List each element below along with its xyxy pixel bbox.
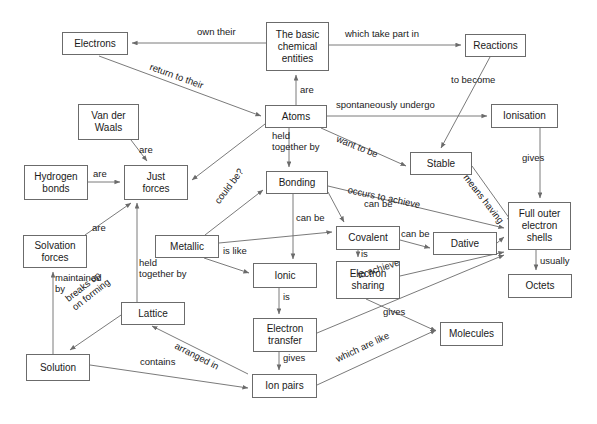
edge-label-atoms-to-basic_entities: are bbox=[300, 84, 314, 95]
concept-node-just_forces[interactable]: Just forces bbox=[124, 165, 188, 200]
edge-electron_shar-to-full_outer bbox=[400, 252, 504, 276]
concept-node-ionisation[interactable]: Ionisation bbox=[491, 104, 558, 128]
concept-node-molecules[interactable]: Molecules bbox=[440, 322, 503, 346]
edge-label-ionisation-to-full_outer: gives bbox=[522, 152, 544, 163]
concept-node-full_outer[interactable]: Full outer electron shells bbox=[508, 202, 571, 250]
concept-node-reactions[interactable]: Reactions bbox=[465, 34, 526, 57]
edge-label-bonding-to-ionic: can be bbox=[296, 212, 325, 223]
edge-label-van_der_waals-to-just_forces: are bbox=[139, 144, 153, 155]
edge-label-bonding-to-covalent: can be bbox=[364, 198, 393, 209]
concept-node-electrons[interactable]: Electrons bbox=[62, 32, 128, 55]
concept-node-atoms[interactable]: Atoms bbox=[265, 105, 327, 128]
edge-label-solution-to-ion_pairs: contains bbox=[140, 356, 175, 367]
edge-solution-to-ion_pairs bbox=[90, 365, 248, 388]
edge-label-ionic-to-electron_trans: is bbox=[283, 291, 290, 302]
concept-map-canvas: ElectronsThe basic chemical entitiesReac… bbox=[0, 0, 597, 424]
concept-node-van_der_waals[interactable]: Van der Waals bbox=[78, 104, 139, 140]
edge-label-basic_entities-to-electrons: own their bbox=[197, 26, 236, 37]
concept-node-metallic[interactable]: Metallic bbox=[155, 235, 219, 258]
concept-node-lattice[interactable]: Lattice bbox=[121, 302, 185, 325]
edge-label-metallic-to-covalent: is like bbox=[223, 245, 247, 256]
edge-label-full_outer-to-octets: usually bbox=[540, 255, 570, 266]
concept-node-dative[interactable]: Dative bbox=[433, 232, 497, 255]
edge-reactions-to-stable bbox=[441, 57, 490, 148]
edge-covalent-to-dative bbox=[400, 240, 430, 248]
concept-node-solvation[interactable]: Solvation forces bbox=[23, 235, 87, 268]
concept-node-ion_pairs[interactable]: Ion pairs bbox=[252, 374, 317, 398]
edge-dative-to-full_outer bbox=[497, 237, 504, 243]
edge-metallic-to-ionic bbox=[204, 258, 249, 273]
concept-node-solution[interactable]: Solution bbox=[26, 354, 90, 381]
edge-label-covalent-to-dative: can be bbox=[401, 228, 430, 239]
concept-node-covalent[interactable]: Covalent bbox=[336, 226, 400, 250]
concept-node-octets[interactable]: Octets bbox=[508, 274, 572, 298]
concept-node-hydrogen_bonds[interactable]: Hydrogen bonds bbox=[24, 165, 88, 200]
edge-label-lattice-to-just_forces: held together by bbox=[139, 257, 187, 279]
edge-label-covalent-to-electron_shar: is bbox=[361, 248, 368, 259]
edge-label-solvation-to-just_forces: are bbox=[92, 222, 106, 233]
edge-label-electron_shar-to-molecules: gives bbox=[383, 306, 405, 317]
edge-metallic-to-covalent bbox=[219, 232, 332, 243]
edge-label-electron_trans-to-ion_pairs: gives bbox=[283, 352, 305, 363]
concept-node-stable[interactable]: Stable bbox=[410, 152, 472, 175]
edge-bonding-to-covalent bbox=[328, 192, 344, 222]
edge-label-atoms-to-just_forces: held together by bbox=[272, 130, 320, 152]
concept-node-basic_entities[interactable]: The basic chemical entities bbox=[266, 22, 329, 71]
edge-label-basic_entities-to-reactions: which take part in bbox=[345, 28, 419, 39]
edge-lattice-to-solution bbox=[70, 313, 124, 350]
concept-node-ionic[interactable]: Ionic bbox=[253, 263, 317, 288]
concept-node-bonding[interactable]: Bonding bbox=[266, 171, 328, 194]
concept-node-electron_trans[interactable]: Electron transfer bbox=[253, 318, 317, 352]
edge-label-hydrogen_bonds-to-just_forces: are bbox=[93, 168, 107, 179]
edge-label-reactions-to-stable: to become bbox=[451, 74, 495, 85]
edge-label-atoms-to-ionisation: spontaneously undergo bbox=[336, 99, 435, 110]
edge-atoms-to-just_forces bbox=[192, 124, 265, 180]
